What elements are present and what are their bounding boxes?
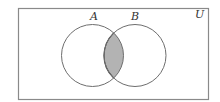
universe-label: U: [195, 8, 205, 21]
venn-diagram: A B U: [0, 0, 220, 102]
set-a-label: A: [89, 10, 98, 23]
set-b-label: B: [130, 10, 139, 23]
